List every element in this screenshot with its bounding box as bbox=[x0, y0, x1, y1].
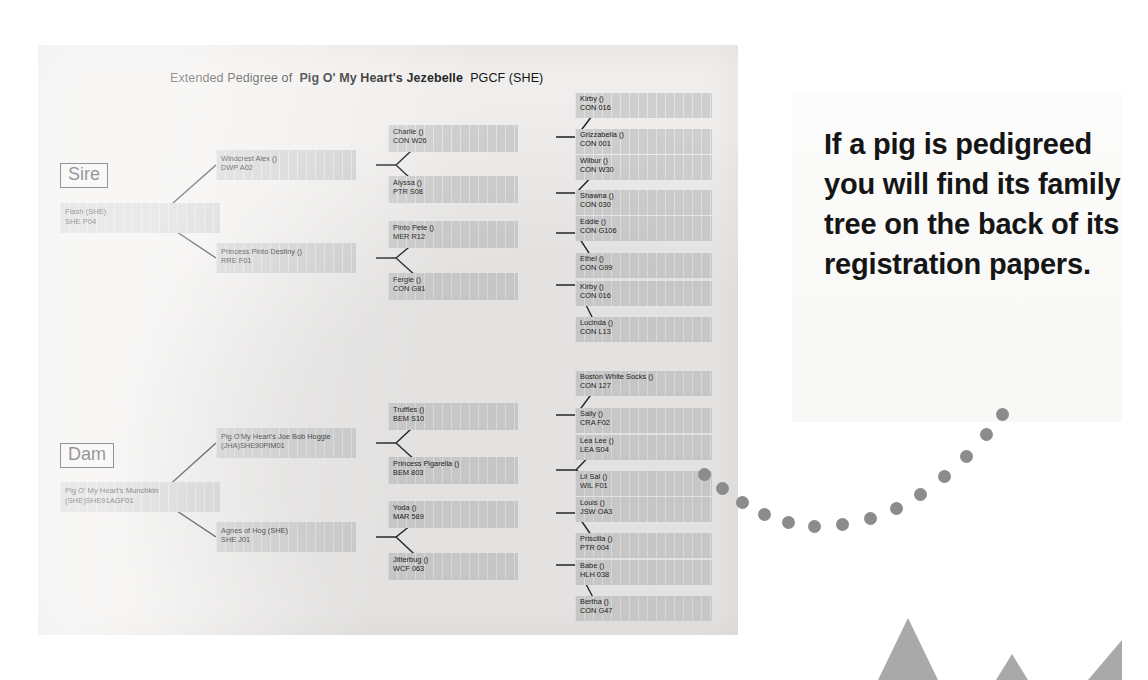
node-name: Charlie () bbox=[393, 128, 514, 137]
node-name: Fergie () bbox=[393, 276, 514, 285]
node-name: Babe () bbox=[580, 562, 708, 571]
sire-gen4-node-7: Kirby () CON 016 bbox=[575, 281, 712, 306]
node-registration: SHE J01 bbox=[221, 535, 352, 544]
node-registration: RRE F01 bbox=[221, 256, 352, 265]
node-name: Windcrest Alex () bbox=[221, 154, 352, 163]
node-registration: CRA F02 bbox=[580, 419, 708, 428]
node-registration: MAR 589 bbox=[393, 513, 514, 522]
decorative-dot bbox=[980, 428, 993, 441]
sire-gen4-node-4: Shawna () CON 030 bbox=[575, 190, 712, 215]
node-registration: PTR 004 bbox=[580, 544, 708, 553]
sire-gen4-node-6: Ethel () CON G99 bbox=[575, 253, 712, 278]
dam-root-node: Pig O' My Heart's Munchkin (SHE)SHE91AGF… bbox=[60, 482, 220, 512]
node-registration: (SHE)SHE91AGF01 bbox=[65, 496, 216, 506]
decorative-dot bbox=[914, 488, 927, 501]
node-name: Wilbur () bbox=[580, 157, 708, 166]
decorative-dot bbox=[758, 508, 771, 521]
node-registration: WIL F01 bbox=[580, 482, 708, 491]
node-registration: CON W26 bbox=[393, 137, 514, 146]
node-registration: CON 127 bbox=[580, 382, 708, 391]
dam-gen2-node-2: Agnes of Hog (SHE) SHE J01 bbox=[216, 522, 356, 552]
node-registration: CON G81 bbox=[393, 285, 514, 294]
node-name: Princess Pinto Destiny () bbox=[221, 247, 352, 256]
node-name: Agnes of Hog (SHE) bbox=[221, 526, 352, 535]
node-name: Grizzabella () bbox=[580, 131, 708, 140]
node-name: Princess Pigarella () bbox=[393, 460, 514, 469]
dam-gen3-node-2: Princess Pigarella () BEM 803 bbox=[388, 457, 518, 484]
decorative-dot bbox=[938, 470, 951, 483]
decorative-dot bbox=[836, 518, 849, 531]
node-registration: HLH 038 bbox=[580, 571, 708, 580]
node-registration: CON G106 bbox=[580, 227, 708, 236]
node-name: Kirby () bbox=[580, 283, 708, 292]
node-registration: SHE P04 bbox=[65, 217, 216, 227]
sire-label: Sire bbox=[60, 163, 108, 188]
node-registration: CON L13 bbox=[580, 328, 708, 337]
dam-gen3-node-3: Yoda () MAR 589 bbox=[388, 501, 518, 528]
node-name: Truffles () bbox=[393, 406, 514, 415]
decorative-dot bbox=[890, 502, 903, 515]
decorative-dot bbox=[808, 520, 821, 533]
node-name: Kirby () bbox=[580, 95, 708, 104]
decorative-dot bbox=[716, 482, 729, 495]
decorative-triangles bbox=[870, 600, 1148, 680]
node-name: Bertha () bbox=[580, 598, 708, 607]
pedigree-scan-sheet: Extended Pedigree of Pig O' My Heart's J… bbox=[38, 45, 738, 635]
node-registration: LEA S04 bbox=[580, 446, 708, 455]
node-name: Pig O' My Heart's Munchkin bbox=[65, 486, 216, 496]
node-registration: MER R12 bbox=[393, 233, 514, 242]
dam-gen3-node-1: Truffles () BEM S10 bbox=[388, 403, 518, 430]
dam-gen4-node-8: Bertha () CON G47 bbox=[575, 596, 712, 621]
dam-gen4-node-1: Boston White Socks () CON 127 bbox=[575, 371, 712, 396]
sire-gen3-node-1: Charlie () CON W26 bbox=[388, 125, 518, 152]
node-registration: CON 030 bbox=[580, 201, 708, 210]
sire-gen3-node-2: Alyssa () PTR S08 bbox=[388, 176, 518, 203]
node-name: Shawna () bbox=[580, 192, 708, 201]
sire-gen4-node-2: Grizzabella () CON 001 bbox=[575, 129, 712, 154]
triangle-right bbox=[1088, 640, 1122, 680]
caption-text: If a pig is pedigreed you will find its … bbox=[824, 124, 1124, 284]
sire-gen2-node-1: Windcrest Alex () DWP A02 bbox=[216, 150, 356, 180]
node-name: Lea Lee () bbox=[580, 437, 708, 446]
node-name: Sally () bbox=[580, 410, 708, 419]
sire-gen3-node-3: Pinto Pete () MER R12 bbox=[388, 221, 518, 248]
pedigree-chart: Sire Flash (SHE) SHE P04 Windcrest Alex … bbox=[38, 45, 738, 635]
decorative-dot bbox=[996, 408, 1009, 421]
decorative-dot-arc bbox=[690, 420, 1020, 590]
node-name: Pig O'My Heart's Joe Bob Hoggie bbox=[221, 432, 352, 441]
node-name: Flash (SHE) bbox=[65, 207, 216, 217]
sire-gen4-node-3: Wilbur () CON W30 bbox=[575, 155, 712, 180]
node-name: Pinto Pete () bbox=[393, 224, 514, 233]
node-registration: DWP A02 bbox=[221, 163, 352, 172]
node-name: Ethel () bbox=[580, 255, 708, 264]
node-name: Louis () bbox=[580, 499, 708, 508]
decorative-dot bbox=[782, 516, 795, 529]
node-name: Lucinda () bbox=[580, 319, 708, 328]
node-name: Boston White Socks () bbox=[580, 373, 708, 382]
node-registration: CON G47 bbox=[580, 607, 708, 616]
node-registration: BEM S10 bbox=[393, 415, 514, 424]
node-name: Yoda () bbox=[393, 504, 514, 513]
node-registration: WCF 063 bbox=[393, 565, 514, 574]
node-registration: CON 001 bbox=[580, 140, 708, 149]
node-registration: CON G99 bbox=[580, 264, 708, 273]
sire-root-node: Flash (SHE) SHE P04 bbox=[60, 203, 220, 233]
node-registration: PTR S08 bbox=[393, 188, 514, 197]
node-registration: CON 016 bbox=[580, 104, 708, 113]
sire-gen4-node-5: Eddie () CON G106 bbox=[575, 216, 712, 241]
node-name: Priscilla () bbox=[580, 535, 708, 544]
decorative-dot bbox=[736, 496, 749, 509]
node-registration: JSW OA3 bbox=[580, 508, 708, 517]
node-registration: CON 016 bbox=[580, 292, 708, 301]
triangle-small bbox=[996, 654, 1028, 680]
triangle-large bbox=[878, 618, 938, 680]
node-name: Alyssa () bbox=[393, 179, 514, 188]
decorative-dot bbox=[698, 468, 711, 481]
decorative-dot bbox=[960, 450, 973, 463]
dam-gen2-node-1: Pig O'My Heart's Joe Bob Hoggie (JHA)SHE… bbox=[216, 428, 356, 458]
decorative-dot bbox=[864, 512, 877, 525]
node-name: Jitterbug () bbox=[393, 556, 514, 565]
node-registration: BEM 803 bbox=[393, 469, 514, 478]
sire-gen3-node-4: Fergie () CON G81 bbox=[388, 273, 518, 300]
node-registration: (JHA)SHE90PIM01 bbox=[221, 441, 352, 450]
